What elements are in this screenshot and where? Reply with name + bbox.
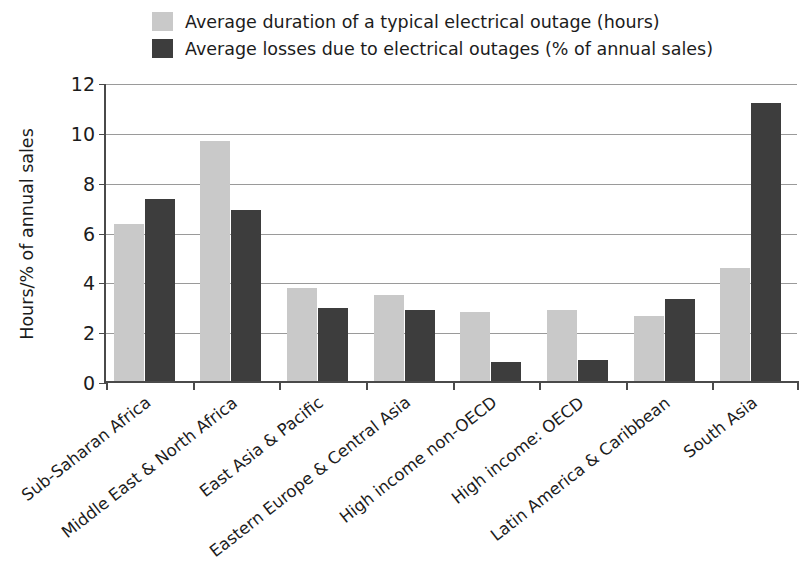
bar xyxy=(231,210,261,381)
y-axis-tick-label: 10 xyxy=(71,123,95,145)
bar xyxy=(491,362,521,381)
bar xyxy=(318,308,348,382)
bar xyxy=(114,224,144,381)
legend-label-losses: Average losses due to electrical outages… xyxy=(185,39,713,59)
x-axis-label: High income non-OECD xyxy=(336,393,501,527)
bar xyxy=(405,310,435,381)
bar xyxy=(720,268,750,381)
bar xyxy=(460,312,490,381)
x-axis-label: South Asia xyxy=(680,393,761,462)
x-axis-label: Latin America & Caribbean xyxy=(487,393,674,545)
x-axis-tick xyxy=(366,381,368,390)
x-axis-label: Middle East & North Africa xyxy=(58,393,241,542)
y-axis-tick-label: 4 xyxy=(83,272,95,294)
legend-swatch-duration-icon xyxy=(152,12,173,31)
y-axis-tick xyxy=(99,84,106,85)
y-axis-title: Hours/% of annual sales xyxy=(14,84,40,383)
bar-group xyxy=(634,84,695,381)
bar-group xyxy=(114,84,175,381)
bar-group xyxy=(287,84,348,381)
y-axis-tick-label: 2 xyxy=(83,322,95,344)
x-axis-tick xyxy=(712,381,714,390)
x-axis-tick xyxy=(193,381,195,390)
bar-group xyxy=(720,84,781,381)
y-axis-tick-label: 0 xyxy=(83,372,95,394)
legend-label-duration: Average duration of a typical electrical… xyxy=(185,12,660,32)
x-axis-tick xyxy=(539,381,541,390)
legend-swatch-losses-icon xyxy=(152,39,173,58)
y-axis-tick-label: 6 xyxy=(83,223,95,245)
x-axis-tick xyxy=(106,381,108,390)
bar-series-container xyxy=(106,84,797,381)
bar xyxy=(287,288,317,381)
y-axis-tick-label: 8 xyxy=(83,173,95,195)
y-axis-tick xyxy=(99,383,106,384)
bar xyxy=(547,310,577,381)
bar xyxy=(578,360,608,381)
y-axis-tick xyxy=(99,134,106,135)
bar xyxy=(374,295,404,381)
bar xyxy=(200,141,230,381)
x-axis-tick xyxy=(453,381,455,390)
x-axis-tick xyxy=(797,381,799,390)
bar-group xyxy=(547,84,608,381)
y-axis-tick xyxy=(99,184,106,185)
plot-area: 024681012 xyxy=(104,84,797,383)
bar xyxy=(145,199,175,381)
y-axis-tick-label: 12 xyxy=(71,73,95,95)
bar xyxy=(751,103,781,381)
y-axis-title-text: Hours/% of annual sales xyxy=(17,128,37,340)
y-axis-tick xyxy=(99,283,106,284)
x-axis-label: East Asia & Pacific xyxy=(196,393,327,501)
bar xyxy=(634,316,664,381)
legend-item-duration: Average duration of a typical electrical… xyxy=(152,8,772,35)
x-axis-label: Sub-Saharan Africa xyxy=(18,393,154,505)
bar xyxy=(665,299,695,381)
x-axis-label: High income: OECD xyxy=(448,393,587,508)
y-axis-tick xyxy=(99,333,106,334)
y-axis-tick xyxy=(99,234,106,235)
chart-legend: Average duration of a typical electrical… xyxy=(152,8,772,62)
bar-group xyxy=(374,84,435,381)
x-axis-tick xyxy=(279,381,281,390)
bar-group xyxy=(200,84,261,381)
x-axis-tick xyxy=(626,381,628,390)
x-axis-label: Eastern Europe & Central Asia xyxy=(206,393,414,561)
legend-item-losses: Average losses due to electrical outages… xyxy=(152,35,772,62)
bar-group xyxy=(460,84,521,381)
